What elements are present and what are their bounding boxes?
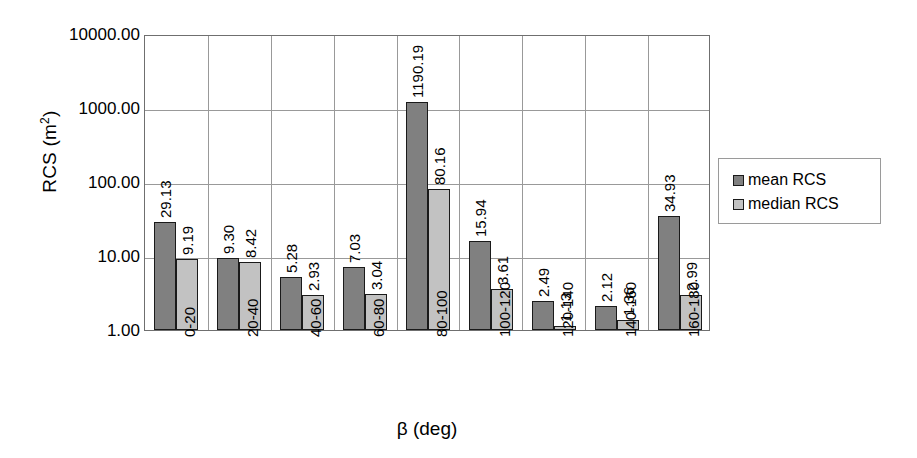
bar-mean-rcs[interactable] (469, 241, 491, 330)
x-tick-label: 140-160 (623, 282, 638, 337)
bar-value-label: 2.49 (536, 267, 551, 296)
bar-group: 1190.1980.16 (397, 36, 460, 330)
x-tick-label: 80-100 (434, 290, 449, 337)
bar-value-label: 3.61 (495, 256, 510, 285)
bar-mean-rcs[interactable] (280, 277, 302, 330)
bar-value-label: 15.94 (473, 199, 488, 237)
bar-group: 5.282.93 (271, 36, 334, 330)
y-tick-label: 1000.00 (40, 100, 140, 117)
bar-group: 9.308.42 (208, 36, 271, 330)
bar-group: 7.033.04 (334, 36, 397, 330)
bar-value-label: 9.30 (221, 225, 236, 254)
bar-value-label: 29.13 (158, 180, 173, 218)
legend-swatch-median-rcs (733, 199, 744, 210)
bar-mean-rcs[interactable] (343, 267, 365, 330)
y-tick-label: 100.00 (40, 174, 140, 191)
bar-value-label: 80.16 (432, 148, 447, 186)
legend-item[interactable]: mean RCS (733, 168, 880, 192)
rcs-bar-chart: RCS (m2) 1.0010.00100.001000.0010000.00 … (0, 0, 917, 458)
x-tick-label: 40-60 (308, 299, 323, 337)
y-tick-label: 1.00 (40, 322, 140, 339)
x-tick-label: 60-80 (371, 299, 386, 337)
bar-value-label: 7.03 (347, 234, 362, 263)
x-tick-label: 0-20 (182, 307, 197, 337)
x-tick-label: 20-40 (245, 299, 260, 337)
bar-mean-rcs[interactable] (532, 301, 554, 330)
bar-mean-rcs[interactable] (217, 258, 239, 330)
bar-value-label: 5.28 (284, 243, 299, 272)
bar-value-label: 1190.19 (410, 45, 425, 98)
x-tick-label: 160-180 (686, 282, 701, 337)
y-tick-label: 10.00 (40, 248, 140, 265)
legend-label: mean RCS (748, 172, 826, 188)
bar-value-label: 34.93 (662, 174, 677, 212)
bar-value-label: 2.12 (599, 273, 614, 302)
bar-group: 29.139.19 (145, 36, 208, 330)
x-axis-tick-labels: 0-2020-4040-6060-8080-100100-120120-1401… (144, 331, 710, 421)
y-tick-label: 10000.00 (40, 26, 140, 43)
x-axis-title: β (deg) (144, 418, 710, 440)
bar-mean-rcs[interactable] (658, 216, 680, 330)
bar-value-label: 2.93 (306, 262, 321, 291)
bar-mean-rcs[interactable] (154, 222, 176, 330)
legend-item[interactable]: median RCS (733, 192, 880, 216)
chart-legend: mean RCSmedian RCS (718, 158, 881, 224)
bar-mean-rcs[interactable] (406, 102, 428, 330)
bar-value-label: 8.42 (243, 228, 258, 257)
legend-label: median RCS (748, 196, 839, 212)
legend-swatch-mean-rcs (733, 175, 744, 186)
x-tick-label: 100-120 (497, 282, 512, 337)
x-tick-label: 120-140 (560, 282, 575, 337)
bar-value-label: 3.04 (369, 261, 384, 290)
bar-mean-rcs[interactable] (595, 306, 617, 330)
bar-value-label: 9.19 (180, 226, 195, 255)
y-axis-tick-labels: 1.0010.00100.001000.0010000.00 (36, 0, 140, 458)
